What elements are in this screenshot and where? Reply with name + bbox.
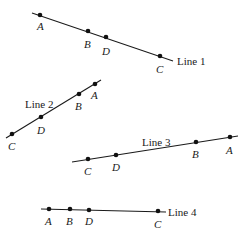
point-a-label: A [90,89,98,101]
point-d-dot [87,208,92,213]
point-a-dot [228,135,233,140]
line-4-group: Line 4ABDC [41,206,197,230]
point-b-label: B [75,100,82,112]
point-a-label: A [44,215,52,227]
point-c-dot [156,209,161,214]
point-d-dot [114,153,119,158]
point-b-label: B [84,38,91,50]
point-b-label: B [192,148,199,160]
line-4-label: Line 4 [168,206,197,218]
lines-diagram: Line 1ABDCLine 2ABDCLine 3ABDCLine 4ABDC [0,0,245,232]
point-b-dot [86,29,91,34]
line-2-group: Line 2ABDC [6,80,101,152]
point-b-dot [68,207,73,212]
point-d-label: D [84,215,93,227]
line-2-label: Line 2 [25,98,53,110]
line-1-label: Line 1 [177,55,205,67]
point-b-dot [77,92,82,97]
point-c-label: C [156,63,164,75]
point-a-dot [93,82,98,87]
point-c-label: C [84,165,92,177]
point-d-label: D [111,161,120,173]
line-2-segment [6,80,101,138]
point-c-label: C [8,140,16,152]
point-d-label: D [101,45,110,57]
point-b-dot [194,140,199,145]
point-c-dot [158,54,163,59]
point-a-label: A [36,20,44,32]
point-c-dot [86,157,91,162]
point-d-dot [39,115,44,120]
point-d-label: D [36,124,45,136]
point-a-dot [47,207,52,212]
point-c-label: C [154,218,162,230]
point-c-dot [10,132,15,137]
point-a-label: A [225,144,233,156]
point-a-dot [38,13,43,18]
point-b-label: B [66,215,73,227]
line-3-label: Line 3 [142,136,171,148]
line-4-segment [41,209,166,212]
point-d-dot [104,35,109,40]
line-3-group: Line 3ABDC [72,135,238,177]
line-1-group: Line 1ABDC [32,13,205,75]
